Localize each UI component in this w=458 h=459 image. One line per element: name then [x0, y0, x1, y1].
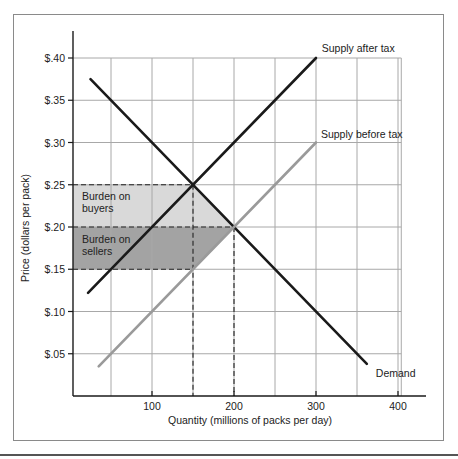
x-tick-label: 400 — [389, 400, 407, 412]
region-label: buyers — [82, 202, 114, 214]
y-tick-label: $.15 — [45, 263, 66, 275]
x-tick-label: 300 — [307, 400, 325, 412]
demand-label: Demand — [376, 367, 416, 379]
y-tick-label: $.20 — [45, 221, 66, 233]
y-tick-label: $.35 — [45, 94, 66, 106]
region-label: Burden on — [82, 190, 131, 202]
x-tick-label: 200 — [225, 400, 243, 412]
x-tick-label: 100 — [143, 400, 161, 412]
y-tick-label: $.30 — [45, 137, 66, 149]
y-tick-label: $.25 — [45, 179, 66, 191]
y-tick-label: $.10 — [45, 306, 66, 318]
y-tick-label: $.40 — [45, 52, 66, 64]
y-tick-label: $.05 — [45, 348, 66, 360]
tax-incidence-chart: $.05$.10$.15$.20$.25$.30$.35$.4010020030… — [0, 0, 458, 459]
region-label: sellers — [82, 245, 112, 257]
supply-after-tax-label: Supply after tax — [322, 42, 396, 54]
region-label: Burden on — [82, 233, 131, 245]
x-axis-title: Quantity (millions of packs per day) — [168, 414, 332, 426]
y-axis-title: Price (dollars per pack) — [19, 174, 31, 282]
supply-before-tax-label: Supply before tax — [321, 128, 403, 140]
